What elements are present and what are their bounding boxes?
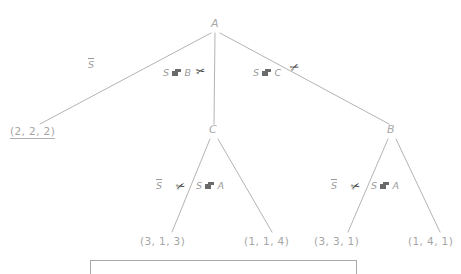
tree-node-c: C [209,124,217,135]
right-arrow-icon [262,69,271,76]
strategy-s-bar: S [88,60,94,70]
strategy-s-bar: S [331,181,337,191]
edge-label-a-to-222: S [88,60,94,70]
tree-node-a: A [211,18,219,29]
strategy-s: S [163,68,169,78]
strategy-s-bar: S [156,181,162,191]
right-arrow-icon [172,69,181,76]
edge-a-c [214,33,215,124]
strategy-target: B [184,68,191,78]
edge-label-b-to-141: S A [371,181,399,191]
scissors-icon: ✂ [195,65,206,77]
strategy-s: S [196,181,202,191]
leaf-value-3-1-3: (3, 1, 3) [140,236,185,247]
edge-b-141 [396,139,440,232]
right-arrow-icon [380,182,389,189]
tree-node-b: B [387,124,395,135]
leaf-value-1-4-1: (1, 4, 1) [408,236,453,247]
strategy-s: S [253,68,259,78]
edge-label-b-to-331: S [331,181,337,191]
edge-label-a-to-b: S C [253,68,281,78]
edge-a-222 [40,33,211,124]
edge-a-b [220,33,389,124]
leaf-value-3-3-1: (3, 3, 1) [314,236,359,247]
edge-c-114 [218,139,272,232]
edge-label-c-to-313: S [156,181,162,191]
edge-label-c-to-114: S A [196,181,224,191]
leaf-value-1-1-4: (1, 1, 4) [244,236,289,247]
strategy-target: A [392,181,399,191]
strategy-target: C [274,68,281,78]
strategy-target: A [217,181,224,191]
edge-label-a-to-c: S B [163,68,191,78]
strategy-s: S [371,181,377,191]
right-arrow-icon [205,182,214,189]
leaf-value-2-2-2: (2, 2, 2) [10,126,55,139]
bottom-panel [90,260,357,274]
